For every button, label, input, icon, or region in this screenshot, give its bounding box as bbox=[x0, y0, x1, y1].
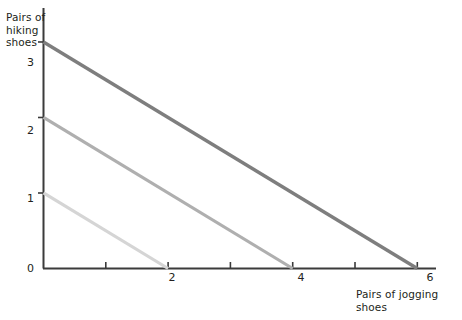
x-tick-label-2: 2 bbox=[164, 271, 180, 284]
chart-plot-area bbox=[0, 0, 462, 320]
y-axis-title: Pairs of hiking shoes bbox=[6, 11, 68, 49]
y-tick-label-3: 3 bbox=[18, 56, 34, 69]
y-tick-label-0: 0 bbox=[18, 262, 34, 275]
budget-line-high bbox=[44, 42, 418, 269]
y-tick-label-1: 1 bbox=[18, 192, 34, 205]
budget-line-mid bbox=[44, 117, 293, 268]
budget-line-low bbox=[44, 193, 169, 269]
data-series-group bbox=[44, 42, 418, 269]
chart-container: Pairs of hiking shoes Pairs of jogging s… bbox=[0, 0, 462, 320]
x-axis-title: Pairs of jogging shoes bbox=[356, 288, 462, 313]
x-tick-label-6: 6 bbox=[422, 271, 438, 284]
x-tick-label-4: 4 bbox=[293, 271, 309, 284]
y-tick-label-2: 2 bbox=[18, 124, 34, 137]
